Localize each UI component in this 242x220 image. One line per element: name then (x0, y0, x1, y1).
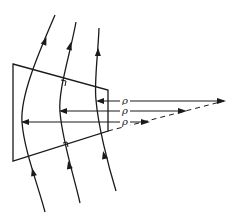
field-line-diagram: ρ ρ ρ (0, 0, 242, 220)
rho-label: ρ (121, 116, 128, 127)
radius-arrow-top: ρ (96, 95, 226, 106)
radius-arrow-middle: ρ (59, 105, 187, 116)
arrowhead-icon (29, 167, 37, 176)
radius-arrow-bottom: ρ (21, 116, 150, 127)
arrowhead-icon (95, 48, 101, 56)
arrowhead-icon (66, 41, 74, 50)
field-line-outer (22, 15, 55, 212)
rho-label: ρ (121, 105, 128, 116)
